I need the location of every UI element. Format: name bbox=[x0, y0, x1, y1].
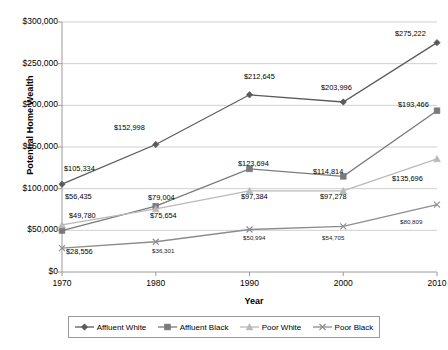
data-point-label: $97,278 bbox=[320, 193, 347, 200]
legend-item-affluent-black[interactable]: Affluent Black bbox=[158, 322, 229, 332]
data-point-label: $56,435 bbox=[65, 193, 92, 200]
series-poor-black bbox=[59, 202, 440, 252]
x-axis-tick-label: 1970 bbox=[32, 278, 92, 288]
data-point-marker bbox=[434, 156, 441, 162]
data-point-label: $152,998 bbox=[114, 124, 145, 131]
data-point-label: $50,994 bbox=[243, 235, 265, 241]
legend-marker-icon bbox=[313, 322, 332, 332]
x-axis-title: Year bbox=[60, 296, 448, 306]
series-line bbox=[62, 205, 437, 249]
x-axis-tick-label: 2010 bbox=[407, 278, 448, 288]
data-point-label: $123,694 bbox=[238, 160, 269, 167]
data-point-marker bbox=[164, 324, 170, 330]
data-point-marker bbox=[246, 92, 252, 98]
legend-marker-icon bbox=[75, 322, 94, 332]
legend-item-label: Poor Black bbox=[335, 323, 374, 332]
data-point-label: $75,654 bbox=[150, 212, 177, 219]
data-point-label: $54,705 bbox=[322, 235, 344, 241]
data-point-marker bbox=[434, 39, 440, 45]
data-point-marker bbox=[81, 324, 87, 330]
legend-item-affluent-white[interactable]: Affluent White bbox=[75, 322, 147, 332]
legend-item-label: Affluent Black bbox=[180, 323, 229, 332]
x-axis-tick-label: 1990 bbox=[220, 278, 280, 288]
data-point-label: $105,334 bbox=[64, 165, 95, 172]
data-point-label: $275,222 bbox=[395, 30, 426, 37]
legend-item-poor-white[interactable]: Poor White bbox=[240, 322, 302, 332]
chart-container: Potential Home Wealth $0$50,000$100,000$… bbox=[0, 0, 448, 350]
data-point-label: $80,809 bbox=[400, 219, 422, 225]
x-axis-tick-label: 2000 bbox=[313, 278, 373, 288]
data-point-label: $212,645 bbox=[244, 73, 275, 80]
data-point-marker bbox=[59, 181, 65, 187]
legend-marker-icon bbox=[158, 322, 177, 332]
legend-item-label: Poor White bbox=[262, 323, 302, 332]
chart-legend: Affluent WhiteAffluent BlackPoor WhitePo… bbox=[68, 316, 380, 338]
data-point-label: $79,004 bbox=[148, 194, 175, 201]
legend-item-poor-black[interactable]: Poor Black bbox=[313, 322, 374, 332]
data-point-marker bbox=[434, 108, 440, 114]
data-point-label: $114,814 bbox=[313, 168, 343, 175]
data-point-label: $193,466 bbox=[398, 101, 429, 108]
data-point-label: $49,780 bbox=[69, 212, 96, 219]
data-point-marker bbox=[59, 228, 65, 234]
data-point-label: $203,996 bbox=[321, 84, 352, 91]
data-point-label: $135,696 bbox=[392, 175, 423, 182]
legend-marker-icon bbox=[240, 322, 259, 332]
legend-item-label: Affluent White bbox=[97, 323, 147, 332]
x-axis-tick-label: 1980 bbox=[126, 278, 186, 288]
data-point-label: $36,301 bbox=[152, 248, 174, 254]
data-point-label: $97,384 bbox=[241, 193, 268, 200]
data-point-marker bbox=[340, 99, 346, 105]
data-point-label: $28,556 bbox=[66, 248, 93, 255]
